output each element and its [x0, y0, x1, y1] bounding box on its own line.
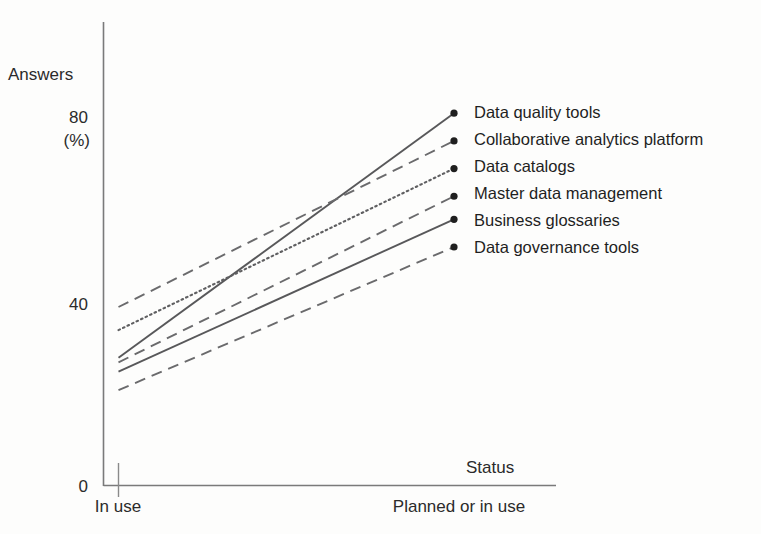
legend-item-4[interactable]: Business glossaries	[474, 207, 759, 234]
series-1	[119, 137, 458, 307]
chart-figure: Answers (%) 80 40 0 In use Planned or in…	[0, 0, 761, 534]
series-3	[119, 193, 458, 363]
series-end-marker	[450, 216, 457, 223]
legend-item-1[interactable]: Collaborative analytics platform	[474, 126, 759, 153]
series-4	[119, 216, 458, 372]
legend-item-2[interactable]: Data catalogs	[474, 153, 759, 180]
legend: Data quality tools Collaborative analyti…	[474, 99, 759, 261]
series-end-marker	[450, 137, 457, 144]
series-2	[119, 165, 458, 330]
series-line	[119, 113, 455, 358]
series-0	[119, 110, 458, 358]
series-line	[119, 141, 455, 307]
series-line	[119, 247, 455, 390]
plot-area	[0, 0, 761, 534]
series-end-marker	[450, 193, 457, 200]
series-line	[119, 169, 455, 331]
legend-item-3[interactable]: Master data management	[474, 180, 759, 207]
series-5	[119, 243, 458, 390]
series-end-marker	[450, 243, 457, 250]
legend-item-5[interactable]: Data governance tools	[474, 234, 759, 261]
series-end-marker	[450, 110, 457, 117]
series-line	[119, 196, 455, 362]
legend-item-0[interactable]: Data quality tools	[474, 99, 759, 126]
series-line	[119, 219, 455, 371]
series-end-marker	[450, 165, 457, 172]
series-layer	[119, 110, 458, 391]
